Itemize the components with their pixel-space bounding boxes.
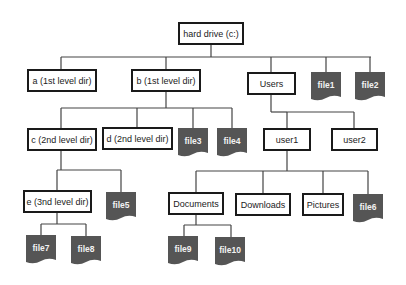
- file-node-file9: file9: [168, 236, 198, 266]
- file-label: file9: [174, 244, 191, 254]
- dir-label: hard drive (c:): [183, 29, 239, 39]
- file-node-file6: file6: [353, 194, 383, 224]
- dir-users: Users: [247, 72, 296, 95]
- dir-b: b (1st level dir): [131, 69, 201, 92]
- file-label: file8: [77, 244, 94, 254]
- dir-downloads: Downloads: [235, 193, 291, 216]
- dir-hard-drive: hard drive (c:): [178, 22, 244, 45]
- file-node-file2: file2: [355, 72, 385, 102]
- file-label: file5: [112, 200, 129, 210]
- dir-a: a (1st level dir): [27, 69, 97, 92]
- dir-label: Users: [260, 79, 284, 89]
- file-label: file4: [223, 136, 240, 146]
- file-node-file1: file1: [311, 72, 341, 102]
- dir-pictures: Pictures: [302, 193, 344, 216]
- file-label: file10: [219, 245, 241, 255]
- dir-label: d (2nd level dir): [106, 134, 168, 144]
- dir-label: Documents: [173, 199, 219, 209]
- dir-label: c (2nd level dir): [31, 135, 93, 145]
- dir-label: Pictures: [307, 200, 340, 210]
- file-node-file8: file8: [71, 236, 101, 266]
- file-label: file6: [359, 202, 376, 212]
- dir-user2: user2: [331, 128, 378, 151]
- file-node-file10: file10: [215, 237, 245, 267]
- file-system-tree-diagram: hard drive (c:) a (1st level dir) b (1st…: [0, 0, 406, 285]
- file-node-file3: file3: [178, 128, 208, 158]
- dir-user1: user1: [263, 128, 311, 151]
- file-node-file5: file5: [106, 192, 136, 222]
- dir-label: e (3nd level dir): [26, 197, 88, 207]
- dir-label: user1: [276, 135, 299, 145]
- dir-label: user2: [343, 135, 366, 145]
- dir-label: Downloads: [241, 200, 286, 210]
- dir-d: d (2nd level dir): [102, 127, 173, 150]
- file-label: file2: [361, 80, 378, 90]
- dir-e: e (3nd level dir): [23, 190, 92, 213]
- file-node-file7: file7: [26, 235, 56, 265]
- file-label: file3: [184, 136, 201, 146]
- file-label: file1: [317, 80, 334, 90]
- dir-label: a (1st level dir): [32, 76, 91, 86]
- file-label: file7: [32, 243, 49, 253]
- dir-label: b (1st level dir): [136, 76, 195, 86]
- dir-documents: Documents: [168, 192, 224, 215]
- dir-c: c (2nd level dir): [27, 128, 97, 151]
- file-node-file4: file4: [217, 128, 247, 158]
